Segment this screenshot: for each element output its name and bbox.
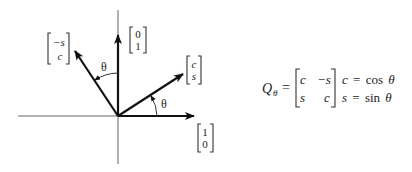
matrix-r0c1: −s [317,72,331,87]
label-q2: −s c [48,33,69,64]
matrix-r1c1: c [324,90,330,105]
vector-q1-arrow [118,74,183,116]
angle-label-lower: θ [161,97,167,111]
rotation-diagram: θ θ 0 1 c s −s c 1 0 Q θ = c −s s c [0,0,412,172]
definition-s: s = sin θ [342,90,392,105]
formula-equals: = [282,80,290,95]
svg-text:c: c [58,50,63,62]
formula-lhs-subscript: θ [273,88,278,98]
angle-label-upper: θ [101,60,107,74]
vector-q2-arrow [75,51,118,116]
matrix-r0c0: c [300,72,306,87]
matrix-right-bracket [331,69,335,107]
svg-text:c: c [192,58,197,70]
svg-text:0: 0 [135,28,141,40]
angle-arc-lower [151,96,157,116]
rotation-formula: Q θ = c −s s c c = cos θ s = sin θ [262,69,395,107]
svg-text:s: s [192,70,196,82]
label-e2: 0 1 [130,27,146,53]
svg-text:1: 1 [135,40,141,52]
label-q1: c s [187,56,201,84]
svg-text:0: 0 [202,138,208,150]
svg-text:1: 1 [202,126,208,138]
angle-arc-upper [95,73,118,80]
definition-c: c = cos θ [342,72,395,87]
matrix-r1c0: s [300,90,305,105]
label-e1: 1 0 [198,124,213,152]
svg-text:−s: −s [53,36,65,48]
formula-lhs: Q [262,81,272,96]
